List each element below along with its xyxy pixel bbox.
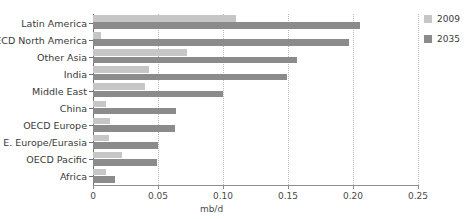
bar-2035 [93,159,157,166]
category-group: Latin America [93,14,418,31]
category-label: Latin America [21,17,87,28]
legend-swatch-icon [424,15,432,23]
x-tick-label: 0.20 [343,191,363,201]
x-tick-mark [288,185,289,189]
bar-2035 [93,142,158,149]
x-tick-label: 0.25 [408,191,428,201]
bar-2035 [93,176,115,183]
bar-2009 [93,101,106,108]
category-group: Other Asia [93,48,418,65]
bar-2035 [93,22,360,29]
gridline-0.25 [418,14,420,185]
category-label: Middle East [32,85,87,96]
bar-2009 [93,49,187,56]
bar-2035 [93,57,297,64]
category-group: India [93,65,418,82]
legend-label: 2009 [437,14,460,24]
category-label: China [60,103,87,114]
x-tick-mark [418,185,419,189]
bar-2035 [93,39,349,46]
bar-2009 [93,32,101,39]
legend-swatch-icon [424,35,432,43]
category-group: China [93,100,418,117]
legend-item-2035[interactable]: 2035 [424,34,460,44]
x-tick-label: 0.15 [278,191,298,201]
x-tick-label: 0.10 [213,191,233,201]
category-group: Middle East [93,82,418,99]
category-label: India [64,68,87,79]
legend-item-2009[interactable]: 2009 [424,14,460,24]
category-group: OECD Pacific [93,151,418,168]
x-tick-label: 0.05 [148,191,168,201]
category-group: E. Europe/Eurasia [93,134,418,151]
x-axis-title: mb/d [0,204,467,214]
x-tick-label: 0 [90,191,96,201]
bar-2035 [93,74,287,81]
x-tick-mark [353,185,354,189]
category-label: E. Europe/Eurasia [3,137,87,148]
bar-2009 [93,152,122,159]
bar-2035 [93,108,176,115]
bar-chart: Latin AmericaOECD North AmericaOther Asi… [0,0,467,219]
bar-2009 [93,118,110,125]
category-group: OECD Europe [93,117,418,134]
x-tick-mark [223,185,224,189]
legend-label: 2035 [437,34,460,44]
x-tick-mark [158,185,159,189]
category-label: OECD Europe [23,120,87,131]
bar-2035 [93,125,175,132]
category-group: Africa [93,168,418,185]
bar-2009 [93,83,145,90]
category-label: Other Asia [37,51,87,62]
bar-2009 [93,15,236,22]
category-label: Africa [60,171,87,182]
category-group: OECD North America [93,31,418,48]
chart-title [0,0,467,10]
bar-2009 [93,135,109,142]
plot-area: Latin AmericaOECD North AmericaOther Asi… [93,14,418,185]
chart-legend: 20092035 [424,14,460,54]
category-label: OECD Pacific [26,154,87,165]
bar-2009 [93,66,149,73]
category-label: OECD North America [0,34,87,45]
bar-2009 [93,169,106,176]
bar-2035 [93,91,223,98]
x-tick-mark [93,185,94,189]
x-axis-line [93,185,419,186]
